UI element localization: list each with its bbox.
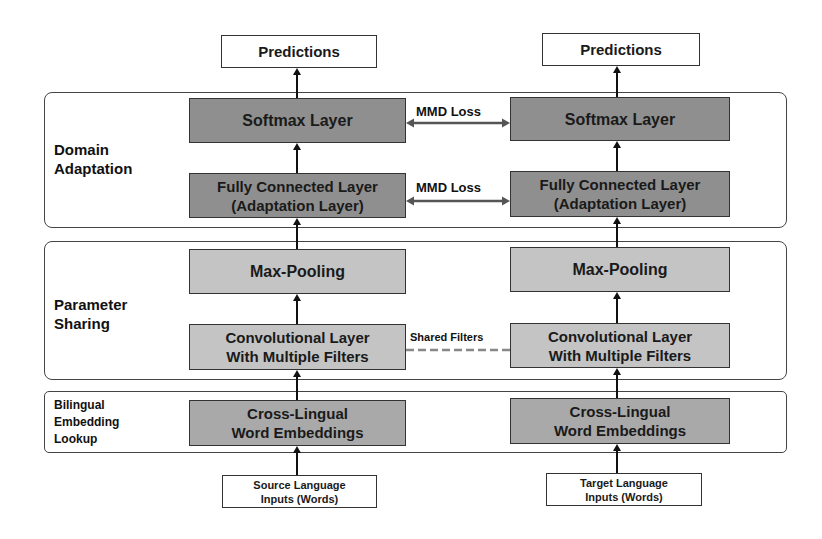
target-predictions-box: Predictions — [542, 33, 700, 66]
source-fc-box: Fully Connected Layer (Adaptation Layer) — [189, 173, 406, 218]
source-input-box: Source Language Inputs (Words) — [222, 475, 377, 508]
target-fc-box: Fully Connected Layer (Adaptation Layer) — [510, 171, 730, 217]
target-maxpool-label: Max-Pooling — [572, 260, 667, 279]
source-embeddings-label: Cross-Lingual Word Embeddings — [231, 404, 363, 442]
target-predictions-label: Predictions — [580, 40, 662, 59]
double-arrow-icon — [406, 118, 510, 128]
arrow-up-icon — [613, 292, 621, 299]
target-softmax-box: Softmax Layer — [510, 97, 730, 141]
dashed-link — [406, 348, 510, 352]
shared-filters-label: Shared Filters — [410, 331, 483, 343]
target-fc-label: Fully Connected Layer (Adaptation Layer) — [540, 175, 701, 213]
target-input-label: Target Language Inputs (Words) — [580, 476, 668, 504]
arrow-up-icon — [613, 141, 621, 148]
target-line-fc-to-softmax — [616, 147, 618, 171]
source-fc-label: Fully Connected Layer (Adaptation Layer) — [217, 177, 378, 215]
source-maxpool-box: Max-Pooling — [189, 249, 406, 294]
arrow-up-icon — [293, 143, 301, 150]
arrow-up-icon — [613, 368, 621, 375]
mmd-loss-softmax-label: MMD Loss — [416, 104, 481, 119]
domain-adaptation-label: Domain Adaptation — [54, 140, 174, 178]
source-line-softmax-to-predictions — [296, 74, 298, 98]
source-line-emb-to-conv — [296, 376, 298, 400]
arrow-up-icon — [613, 66, 621, 73]
target-conv-label: Convolutional Layer With Multiple Filter… — [548, 327, 692, 365]
source-line-fc-to-softmax — [296, 149, 298, 173]
source-line-input-to-emb — [296, 452, 298, 475]
target-input-box: Target Language Inputs (Words) — [546, 473, 702, 506]
source-predictions-box: Predictions — [221, 35, 377, 68]
target-line-conv-to-pool — [616, 298, 618, 323]
source-softmax-label: Softmax Layer — [242, 111, 352, 130]
target-line-softmax-to-predictions — [616, 72, 618, 97]
source-line-pool-to-fc — [296, 224, 298, 249]
source-input-label: Source Language Inputs (Words) — [253, 478, 345, 506]
arrow-up-icon — [293, 294, 301, 301]
arrow-up-icon — [613, 444, 621, 451]
target-embeddings-label: Cross-Lingual Word Embeddings — [554, 402, 686, 440]
arrow-up-icon — [293, 218, 301, 225]
source-line-conv-to-pool — [296, 300, 298, 324]
target-line-input-to-emb — [616, 450, 618, 473]
source-predictions-label: Predictions — [258, 42, 340, 61]
target-embeddings-box: Cross-Lingual Word Embeddings — [510, 398, 730, 444]
source-conv-box: Convolutional Layer With Multiple Filter… — [189, 324, 406, 370]
target-conv-box: Convolutional Layer With Multiple Filter… — [510, 323, 730, 368]
arrow-up-icon — [293, 370, 301, 377]
source-softmax-box: Softmax Layer — [189, 98, 406, 143]
source-maxpool-label: Max-Pooling — [250, 262, 345, 281]
arrow-up-icon — [293, 446, 301, 453]
arrow-up-icon — [613, 217, 621, 224]
double-arrow-icon — [406, 196, 510, 206]
target-line-emb-to-conv — [616, 374, 618, 398]
target-line-pool-to-fc — [616, 223, 618, 247]
source-conv-label: Convolutional Layer With Multiple Filter… — [225, 328, 369, 366]
mmd-loss-fc-label: MMD Loss — [416, 180, 481, 195]
target-softmax-label: Softmax Layer — [565, 110, 675, 129]
target-maxpool-box: Max-Pooling — [510, 247, 730, 292]
arrow-up-icon — [293, 68, 301, 75]
bilingual-embedding-label: Bilingual Embedding Lookup — [54, 397, 174, 448]
source-embeddings-box: Cross-Lingual Word Embeddings — [189, 400, 406, 446]
parameter-sharing-label: Parameter Sharing — [54, 295, 174, 333]
